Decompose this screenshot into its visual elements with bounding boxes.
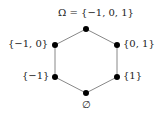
label-ur: {0, 1} [123, 39, 155, 49]
label-ll: {−1} [22, 71, 49, 81]
label-ul: {−1, 0} [8, 39, 48, 49]
label-top: Ω = {−1, 0, 1} [58, 8, 134, 18]
node-lr [114, 74, 120, 80]
node-bottom [83, 90, 89, 96]
label-lr: {1} [123, 71, 142, 81]
label-bottom: ∅ [82, 100, 91, 110]
node-top [83, 26, 89, 32]
edge-top-ur [86, 29, 117, 45]
node-ul [52, 42, 58, 48]
node-ur [114, 42, 120, 48]
edge-top-ul [55, 29, 86, 45]
node-ll [52, 74, 58, 80]
edge-lr-bottom [86, 77, 117, 93]
edge-ll-bottom [55, 77, 86, 93]
